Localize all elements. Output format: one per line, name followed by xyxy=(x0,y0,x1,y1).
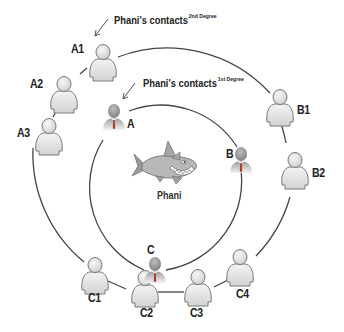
first-degree-caption: Phani's contacts1st Degree xyxy=(143,76,244,89)
caption-superscript: 2nd Degree xyxy=(189,13,217,19)
contact-label-a2: A2 xyxy=(30,77,43,91)
contact-label-b: B xyxy=(226,147,233,161)
contact-label-b1: B1 xyxy=(297,103,310,117)
person-icon-a3 xyxy=(36,119,62,156)
social-network-diagram: Phani's contacts2nd Degree Phani's conta… xyxy=(0,0,344,332)
contact-label-b2: B2 xyxy=(312,166,325,180)
person-icon-a1 xyxy=(90,45,116,82)
caption-text: Phani's contacts xyxy=(143,77,217,89)
businessman-icon-c xyxy=(144,257,166,283)
center-person-label: Phani xyxy=(157,190,182,201)
person-icon-c3 xyxy=(185,270,211,307)
contact-label-c4: C4 xyxy=(236,287,249,301)
person-icon-b1 xyxy=(267,90,293,127)
contact-label-a: A xyxy=(127,117,134,131)
second-degree-caption: Phani's contacts2nd Degree xyxy=(114,13,217,26)
person-icon-b2 xyxy=(282,153,308,190)
person-icon-c4 xyxy=(227,250,253,287)
caption-text: Phani's contacts xyxy=(114,14,188,26)
contact-label-c2: C2 xyxy=(140,306,153,320)
person-icon-a2 xyxy=(51,77,77,114)
caption-superscript: 1st Degree xyxy=(218,76,244,82)
businessman-icon-a xyxy=(103,104,125,130)
contact-label-a1: A1 xyxy=(71,42,84,56)
shark-icon xyxy=(132,141,197,184)
contact-label-c3: C3 xyxy=(190,306,203,320)
contact-label-a3: A3 xyxy=(17,126,30,140)
person-icon-c1 xyxy=(82,258,108,295)
diagram-canvas xyxy=(0,0,344,332)
contact-label-c: C xyxy=(147,243,154,257)
contact-label-c1: C1 xyxy=(88,291,101,305)
